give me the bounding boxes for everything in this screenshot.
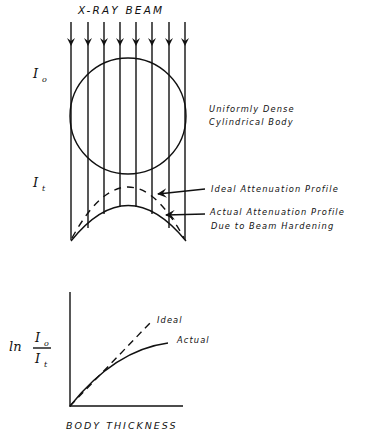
- actual-series-line: [70, 343, 168, 406]
- actual-profile-label-line2: Due to Beam Hardening: [211, 221, 334, 231]
- svg-text:t: t: [44, 360, 48, 369]
- ideal-profile-label: Ideal Attenuation Profile: [211, 184, 339, 194]
- arrowhead-icon: [67, 38, 189, 46]
- svg-text:I: I: [32, 175, 39, 190]
- transmitted-intensity-label: I t: [32, 175, 46, 193]
- beam-title: X-RAY BEAM: [77, 4, 164, 16]
- svg-text:ln: ln: [9, 339, 22, 354]
- attenuation-graph: Ideal Actual BODY THICKNESS ln I o I t: [9, 292, 210, 431]
- svg-text:t: t: [42, 184, 46, 193]
- actual-series-label: Actual: [176, 335, 210, 345]
- svg-text:I: I: [34, 351, 41, 366]
- y-axis-label: ln I o I t: [9, 330, 51, 369]
- incident-intensity-label: I o: [32, 66, 47, 84]
- svg-text:o: o: [44, 339, 49, 348]
- x-axis-label: BODY THICKNESS: [66, 420, 178, 431]
- body-label-line2: Cylindrical Body: [209, 117, 294, 127]
- actual-profile-label-line1: Actual Attenuation Profile: [209, 207, 345, 217]
- ideal-series-label: Ideal: [157, 315, 183, 325]
- actual-leader-arrow: [166, 214, 205, 215]
- ideal-attenuation-profile: [72, 187, 184, 238]
- svg-text:I: I: [32, 66, 39, 81]
- beam-hardening-diagram: X-RAY BEAM I o I t Uniform: [0, 0, 369, 445]
- svg-text:o: o: [42, 75, 47, 84]
- x-ray-beam-lines: [67, 22, 189, 240]
- ideal-leader-arrow: [158, 189, 205, 194]
- body-label-line1: Uniformly Dense: [209, 104, 295, 114]
- svg-text:I: I: [34, 330, 41, 345]
- ideal-series-line: [70, 323, 150, 406]
